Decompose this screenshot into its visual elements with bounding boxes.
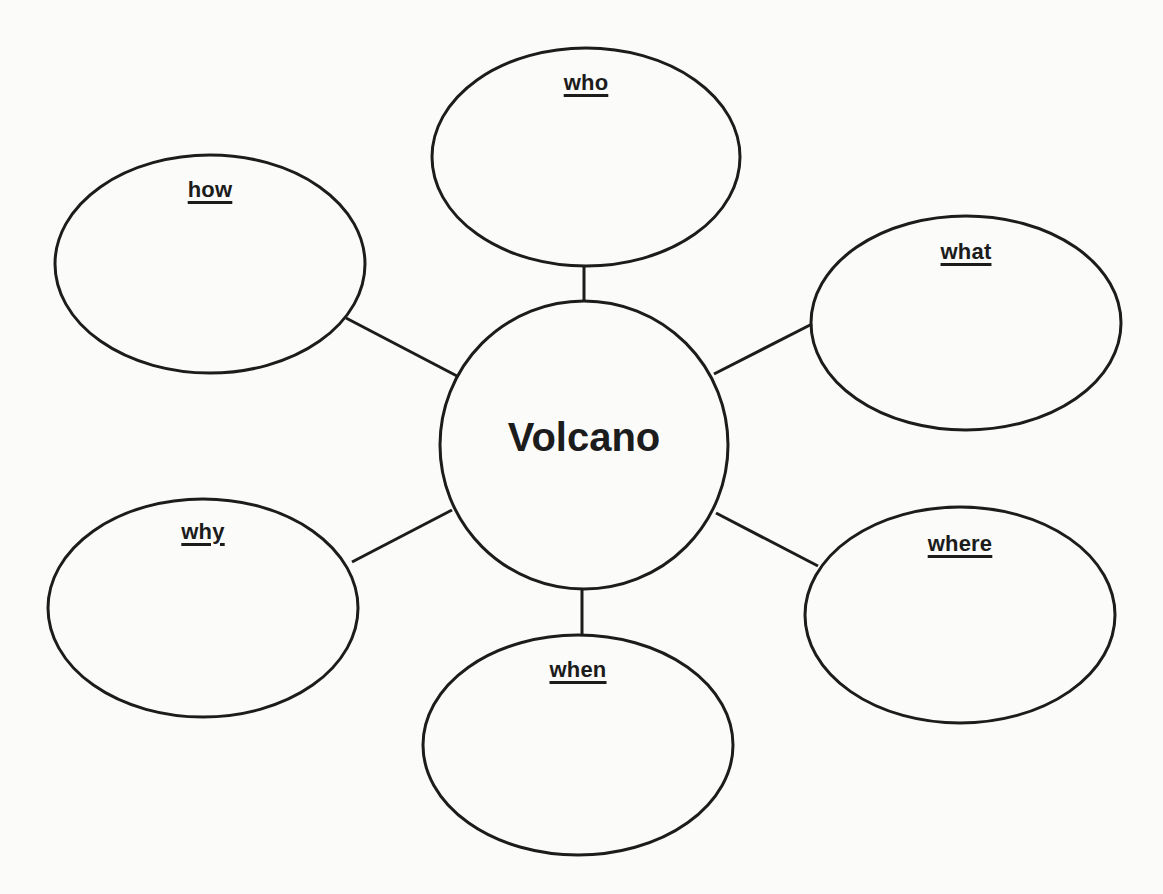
node-label-where: where xyxy=(928,531,993,557)
connector-how xyxy=(346,318,457,376)
center-topic-label: Volcano xyxy=(508,415,661,460)
answer-area-who[interactable] xyxy=(452,106,720,246)
node-label-what: what xyxy=(941,239,992,265)
answer-area-how[interactable] xyxy=(75,213,345,353)
answer-area-where[interactable] xyxy=(825,567,1095,703)
worksheet-canvas: whohowwhatwhywherewhen Volcano xyxy=(0,0,1163,894)
connector-where xyxy=(716,513,818,566)
node-label-when: when xyxy=(549,657,606,683)
node-label-why: why xyxy=(181,519,224,545)
connector-why xyxy=(352,510,452,562)
answer-area-why[interactable] xyxy=(68,555,338,697)
answer-area-what[interactable] xyxy=(831,275,1101,410)
connector-what xyxy=(714,324,812,374)
answer-area-when[interactable] xyxy=(443,693,713,835)
node-label-how: how xyxy=(188,177,233,203)
node-label-who: who xyxy=(564,70,609,96)
